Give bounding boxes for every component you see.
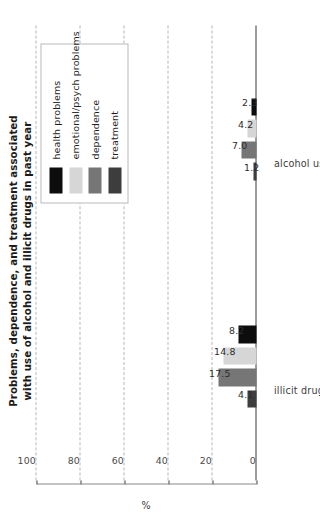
category-label-illicit-drug-use: illicit drug use [274, 385, 287, 396]
value-axis-title: % [141, 500, 150, 511]
chart-title: Problems, dependence, and treatment asso… [6, 0, 33, 521]
bar-value-label: 8.2 [228, 325, 244, 336]
chart-title-line-2: with use of alcohol and illicit drugs in… [20, 0, 34, 521]
chart-title-line-1: Problems, dependence, and treatment asso… [6, 0, 20, 521]
category-label-alcohol-use: alcohol use [274, 157, 287, 168]
legend-label-treatment: treatment [108, 110, 119, 159]
legend-swatch-treatment[interactable] [108, 167, 121, 193]
rotated-chart-canvas: Problems, dependence, and treatment asso… [0, 0, 286, 521]
bar-value-label: 1.2 [244, 162, 260, 173]
bar-value-label: 7.0 [231, 140, 247, 151]
legend-label-dependence: dependence [89, 99, 100, 159]
legend-swatch-emotional-psych-problems[interactable] [69, 167, 82, 193]
value-tick-40: 40 [142, 455, 168, 466]
gridline-40 [167, 25, 168, 480]
value-tick-80: 80 [54, 455, 80, 466]
value-tick-20: 20 [186, 455, 212, 466]
gridline-100 [35, 25, 36, 480]
legend-label-emotional-psych-problems: emotional/psych problems [69, 31, 80, 159]
bar-value-label: 2.3 [241, 97, 257, 108]
value-tick-100: 100 [10, 455, 36, 466]
legend-swatch-health-problems[interactable] [49, 167, 62, 193]
chart-figure: Problems, dependence, and treatment asso… [0, 0, 286, 521]
bar-value-label: 4.1 [237, 389, 253, 400]
value-axis-spine [36, 483, 256, 484]
value-tick-0: 0 [230, 455, 256, 466]
value-tick-60: 60 [98, 455, 124, 466]
bar-value-label: 14.8 [214, 346, 236, 357]
bar-value-label: 4.2 [237, 119, 253, 130]
category-axis-line [255, 25, 256, 480]
gridline-20 [211, 25, 212, 480]
legend-swatch-dependence[interactable] [88, 167, 101, 193]
bar-value-label: 17.5 [208, 368, 230, 379]
legend-label-health-problems: health problems [50, 80, 61, 159]
